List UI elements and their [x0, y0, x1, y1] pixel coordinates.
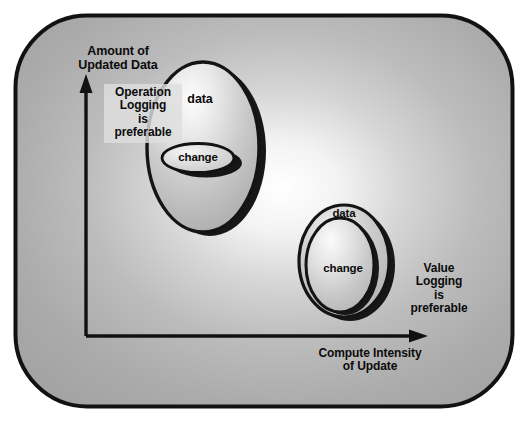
- y-axis-label: Amount of Updated Data: [58, 44, 178, 72]
- value-logging-annotation: Value Logging is preferable: [396, 262, 482, 316]
- large-shape-change-label: change: [167, 151, 229, 164]
- x-axis-label: Compute Intensity of Update: [300, 347, 440, 374]
- large-shape-data-label: data: [170, 92, 230, 106]
- small-shape-data-label: data: [316, 207, 372, 220]
- small-shape-change-label: change: [312, 262, 374, 275]
- diagram-canvas: Amount of Updated Data Compute Intensity…: [0, 0, 528, 422]
